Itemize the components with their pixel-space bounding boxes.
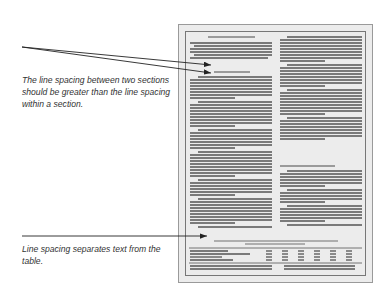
arrow-section-spacing-1 bbox=[22, 47, 211, 65]
arrow-section-spacing-2 bbox=[22, 47, 211, 73]
annotation-table-spacing: Line spacing separates text from the tab… bbox=[22, 243, 172, 267]
annotation-section-spacing: The line spacing between two sections sh… bbox=[22, 74, 192, 110]
